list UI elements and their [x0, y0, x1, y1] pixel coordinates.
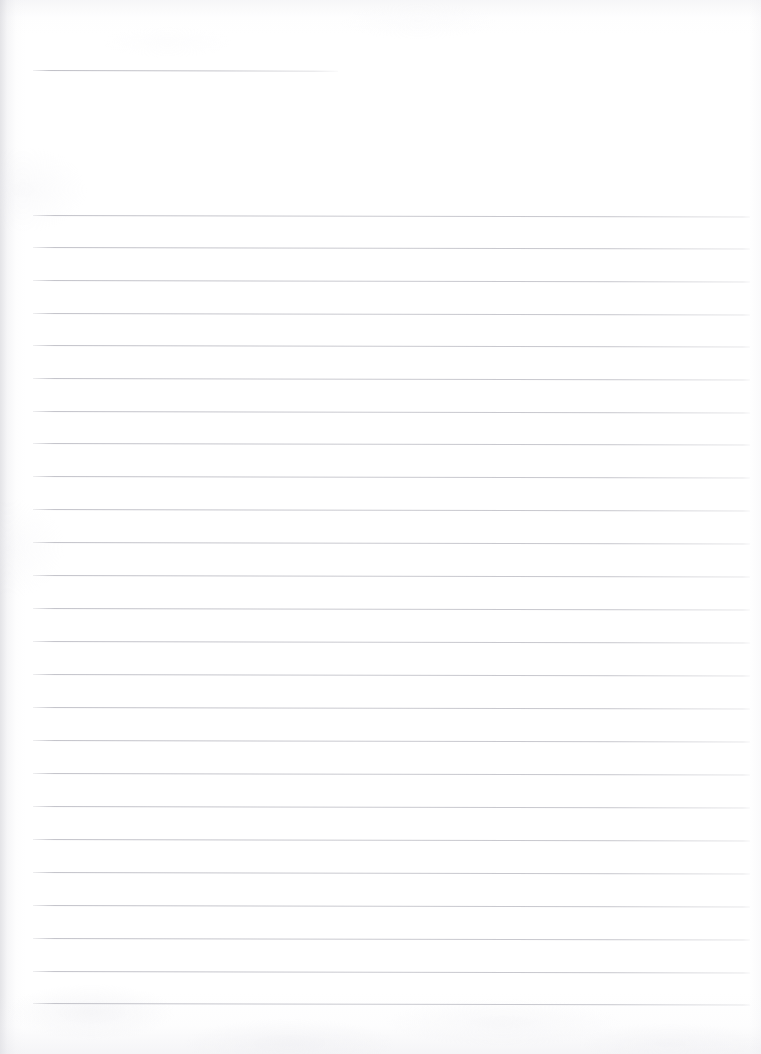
scan-shadow-top [0, 0, 761, 34]
scan-shadow-right [749, 0, 761, 1054]
ruled-line [33, 280, 750, 283]
ruled-line [33, 872, 750, 875]
ruled-line [33, 443, 750, 446]
ruled-line [33, 971, 750, 974]
ruled-line [33, 215, 750, 218]
ruled-line [33, 674, 750, 677]
ruled-line [33, 509, 750, 512]
ruled-line [33, 905, 750, 908]
ruled-line [33, 411, 750, 414]
ruled-line [33, 542, 750, 545]
short-top-rule [33, 70, 338, 72]
ruled-line [33, 608, 750, 611]
scan-shadow-bottom [0, 992, 761, 1054]
ruled-line [33, 247, 750, 250]
ruled-line [33, 740, 750, 743]
paper-texture [0, 0, 761, 1054]
ruled-line [33, 378, 750, 381]
ruled-line [33, 773, 750, 776]
ruled-line [33, 476, 750, 479]
ruled-line [33, 641, 750, 644]
ruled-line [33, 1003, 750, 1006]
ruled-line [33, 839, 750, 842]
ruled-line [33, 575, 750, 578]
ruled-line [33, 938, 750, 941]
scan-shadow-left [0, 0, 26, 1054]
ruled-line [33, 806, 750, 809]
ruled-line [33, 707, 750, 710]
ruled-line [33, 313, 750, 316]
scanned-page [0, 0, 761, 1054]
ruled-line [33, 345, 750, 348]
